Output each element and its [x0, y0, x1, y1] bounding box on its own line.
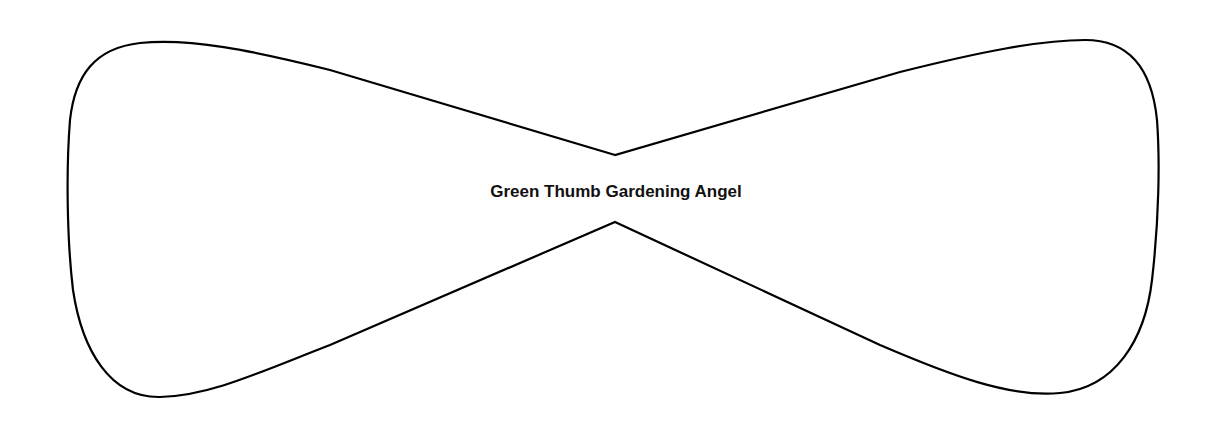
angel-name-label: Green Thumb Gardening Angel: [0, 182, 1217, 202]
bow-tie-outline: [0, 0, 1217, 427]
bow-tie-shape: [68, 40, 1159, 397]
